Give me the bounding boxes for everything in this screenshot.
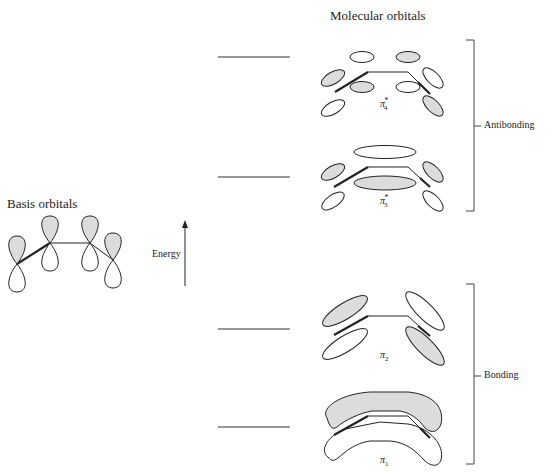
molecular-orbitals-title: Molecular orbitals xyxy=(330,8,426,24)
label-pi4-star: π*4 xyxy=(380,96,388,112)
bracket-bonding xyxy=(466,284,481,464)
bonding-label: Bonding xyxy=(484,369,518,380)
index-subscript: 1 xyxy=(385,460,389,468)
index-subscript: 3 xyxy=(384,201,388,209)
index-subscript: 4 xyxy=(384,104,388,112)
mo-diagram-canvas xyxy=(0,0,552,474)
energy-axis-label: Energy xyxy=(152,248,181,259)
index-subscript: 2 xyxy=(385,355,389,363)
label-pi2: π2 xyxy=(380,349,389,363)
label-pi3-star: π*3 xyxy=(380,193,388,209)
bracket-antibonding xyxy=(466,40,481,211)
energy-arrow xyxy=(182,220,188,286)
basis-orbitals-title: Basis orbitals xyxy=(7,196,77,212)
label-pi1: π1 xyxy=(380,454,389,468)
antibonding-label: Antibonding xyxy=(484,119,535,130)
energy-levels xyxy=(218,57,290,427)
basis-orbitals-drawing xyxy=(9,216,122,292)
